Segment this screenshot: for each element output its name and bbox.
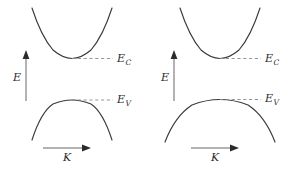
valence-level-symbol-left: E xyxy=(117,93,125,106)
valence-band-curve-right xyxy=(165,100,275,143)
conduction-level-symbol-left: E xyxy=(117,52,125,65)
conduction-band-curve-right xyxy=(180,8,260,59)
conduction-band-curve-left xyxy=(32,8,112,59)
band-diagram-figure: EC EV E K xyxy=(0,0,294,170)
band-diagram-panel-right: EC EV E K xyxy=(147,0,294,170)
momentum-axis-arrowhead-right xyxy=(230,145,239,152)
valence-level-label-right: EV xyxy=(265,93,278,104)
valence-level-subscript-right: V xyxy=(273,98,278,107)
conduction-level-symbol-right: E xyxy=(265,52,273,65)
panel-left-graphics xyxy=(0,0,147,170)
energy-axis-label-right: E xyxy=(161,72,169,83)
valence-band-curve-left xyxy=(32,100,112,140)
energy-axis-label-left: E xyxy=(13,72,21,83)
energy-axis-arrowhead-left xyxy=(23,50,30,59)
conduction-level-subscript-right: C xyxy=(273,58,279,67)
energy-axis-arrowhead-right xyxy=(171,50,178,59)
valence-level-label-left: EV xyxy=(117,94,130,105)
panel-right-graphics xyxy=(147,0,294,170)
conduction-level-label-left: EC xyxy=(117,53,131,64)
conduction-level-subscript-left: C xyxy=(125,58,131,67)
momentum-axis-label-left: K xyxy=(63,152,71,163)
valence-level-subscript-left: V xyxy=(125,99,130,108)
momentum-axis-arrowhead-left xyxy=(82,145,91,152)
momentum-axis-label-right: K xyxy=(211,152,219,163)
band-diagram-panel-left: EC EV E K xyxy=(0,0,147,170)
valence-level-symbol-right: E xyxy=(265,92,273,105)
conduction-level-label-right: EC xyxy=(265,53,279,64)
